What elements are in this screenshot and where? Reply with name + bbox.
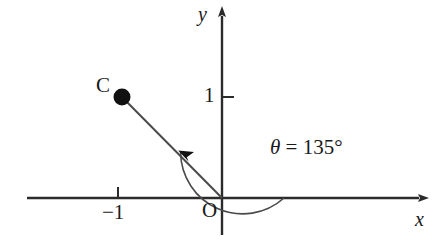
origin-label: O [202, 200, 217, 221]
angle-label: θ = 135° [270, 137, 343, 158]
y-tick-1-label: 1 [204, 85, 215, 106]
x-tick-minus-1-label: −1 [102, 202, 124, 223]
angle-arc [181, 152, 284, 214]
point-c-label: C [96, 75, 110, 96]
ray-origin-to-c [122, 97, 222, 198]
y-axis-label: y [198, 4, 207, 24]
angle-value: 135° [303, 135, 343, 159]
angle-symbol: θ [270, 135, 280, 159]
diagram-canvas [0, 0, 446, 250]
point-c-dot [114, 89, 131, 106]
x-axis-label: x [415, 209, 424, 229]
angle-diagram-figure: y x C 1 −1 O θ = 135° [0, 0, 446, 250]
angle-equals: = [280, 135, 302, 159]
